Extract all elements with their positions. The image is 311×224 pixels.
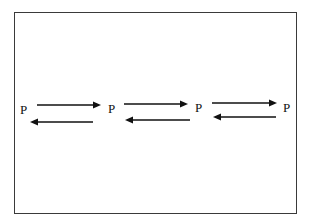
arrowhead-icon xyxy=(180,101,188,108)
arrowhead-icon xyxy=(93,102,101,109)
arrowhead-icon xyxy=(213,114,221,121)
arrowhead-icon xyxy=(269,100,277,107)
arrowhead-icon xyxy=(125,117,133,124)
arrows-layer xyxy=(0,0,311,224)
arrowhead-icon xyxy=(30,119,38,126)
